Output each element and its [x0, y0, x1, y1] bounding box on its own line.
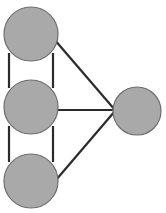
node-layer [4, 7, 161, 208]
graph-node-n1[interactable] [4, 7, 58, 61]
graph-edge-e7 [56, 111, 115, 180]
node-circle-n1[interactable] [4, 7, 58, 61]
graph-node-n3[interactable] [4, 154, 58, 208]
node-circle-n4[interactable] [113, 87, 161, 135]
graph-node-n2[interactable] [4, 80, 58, 134]
diagram-canvas [0, 0, 166, 213]
graph-edge-e5 [54, 39, 115, 110]
node-circle-n2[interactable] [4, 80, 58, 134]
graph-svg [0, 0, 166, 213]
graph-node-n4[interactable] [113, 87, 161, 135]
node-circle-n3[interactable] [4, 154, 58, 208]
